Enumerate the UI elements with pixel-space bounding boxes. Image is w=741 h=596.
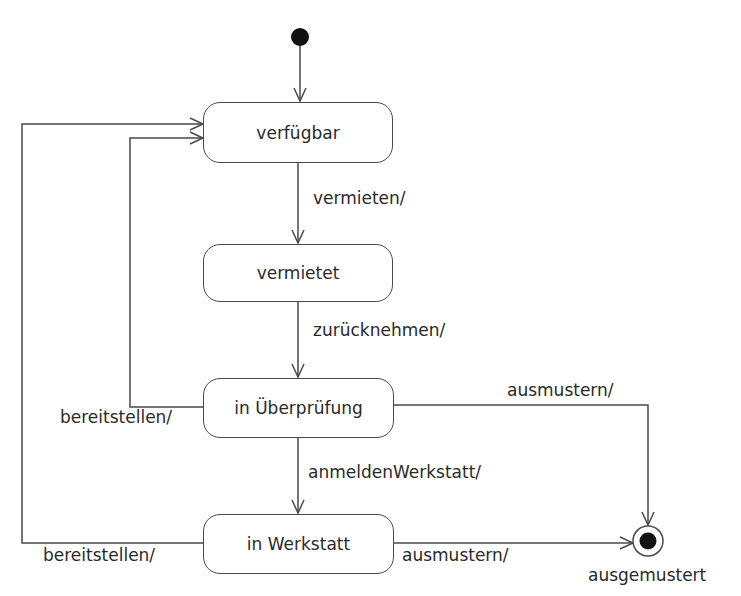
transition-label-bereitstellen-1: bereitstellen/ <box>60 407 172 427</box>
transition-label-vermieten: vermieten/ <box>313 188 406 208</box>
state-in-werkstatt[interactable]: in Werkstatt <box>203 514 394 574</box>
transition-label-bereitstellen-2: bereitstellen/ <box>43 545 155 565</box>
initial-state-icon <box>291 28 309 46</box>
state-verfuegbar[interactable]: verfügbar <box>203 102 393 163</box>
transition-label-ausmustern-2: ausmustern/ <box>402 545 509 565</box>
state-label: vermietet <box>257 263 340 283</box>
state-label: verfügbar <box>256 123 339 143</box>
transition-bereitstellen-2 <box>22 124 203 543</box>
final-state-dot-icon <box>640 533 657 550</box>
transition-label-zuruecknehmen: zurücknehmen/ <box>313 320 445 340</box>
transition-label-anmeldenWerkstatt: anmeldenWerkstatt/ <box>308 462 481 482</box>
transition-label-ausmustern-1: ausmustern/ <box>507 380 614 400</box>
transition-bereitstellen-1 <box>130 138 203 407</box>
state-label: in Überprüfung <box>234 398 362 418</box>
state-label: in Werkstatt <box>247 534 350 554</box>
state-vermietet[interactable]: vermietet <box>203 244 393 302</box>
state-in-ueberpruefung[interactable]: in Überprüfung <box>203 378 394 438</box>
final-state-label: ausgemustert <box>588 565 706 585</box>
